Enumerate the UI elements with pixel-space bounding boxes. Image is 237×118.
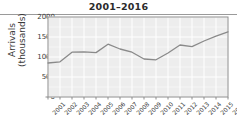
chart-canvas bbox=[0, 0, 237, 118]
chart-figure: 2001–2016 Arrivals (thousands) 2000 1500… bbox=[0, 0, 237, 118]
plot-area: 2000 1500 1000 500 0 2001200220032004200… bbox=[0, 0, 237, 118]
